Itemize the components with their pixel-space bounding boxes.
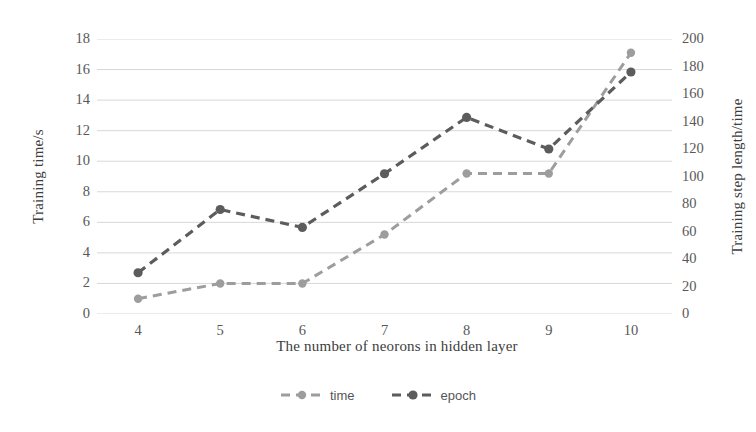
y-axis-right-title: Training step length/time xyxy=(729,57,746,297)
chart-figure: Training time/s Training step length/tim… xyxy=(0,0,756,432)
chart-legend: timeepoch xyxy=(0,382,756,408)
x-axis-tick-label: 9 xyxy=(529,323,569,338)
y-axis-left-tick-label: 2 xyxy=(83,275,90,290)
x-axis-tick-label: 7 xyxy=(365,323,405,338)
y-axis-left-tick-label: 12 xyxy=(76,123,91,138)
y-axis-right-tick-label: 40 xyxy=(682,251,697,266)
y-axis-left-tick-label: 6 xyxy=(83,214,90,229)
y-axis-right-tick-label: 160 xyxy=(682,86,704,101)
y-axis-right-tick-label: 200 xyxy=(682,31,704,46)
series-layer xyxy=(133,49,635,303)
y-axis-right-tick-label: 180 xyxy=(682,59,704,74)
y-axis-right-tick-label: 60 xyxy=(682,224,697,239)
y-axis-left-ticks: 181614121086420 xyxy=(48,0,90,432)
data-point-epoch-5[interactable] xyxy=(216,205,225,214)
data-point-epoch-8[interactable] xyxy=(462,113,471,122)
data-point-epoch-4[interactable] xyxy=(133,268,142,277)
y-axis-right-tick-label: 20 xyxy=(682,279,697,294)
x-axis-tick-label: 5 xyxy=(200,323,240,338)
legend-swatch-icon xyxy=(280,388,324,402)
y-axis-right-tick-label: 120 xyxy=(682,141,704,156)
data-point-epoch-6[interactable] xyxy=(298,223,307,232)
legend-item-time[interactable]: time xyxy=(280,388,355,403)
data-point-time-10[interactable] xyxy=(627,49,635,57)
data-point-time-4[interactable] xyxy=(134,295,142,303)
x-axis-tick-label: 4 xyxy=(118,323,158,338)
y-axis-left-tick-label: 4 xyxy=(83,245,90,260)
data-point-time-7[interactable] xyxy=(380,230,388,238)
y-axis-left-tick-label: 16 xyxy=(76,62,91,77)
y-axis-left-tick-label: 10 xyxy=(76,153,91,168)
y-axis-left-tick-label: 14 xyxy=(76,92,91,107)
x-axis-tick-label: 10 xyxy=(611,323,651,338)
y-axis-left-tick-label: 8 xyxy=(83,184,90,199)
y-axis-right-tick-label: 140 xyxy=(682,114,704,129)
y-axis-left-title: Training time/s xyxy=(30,77,47,277)
y-axis-left-tick-label: 18 xyxy=(76,31,91,46)
plot-area xyxy=(97,39,672,314)
data-point-time-5[interactable] xyxy=(216,279,224,287)
x-axis-tick-label: 8 xyxy=(447,323,487,338)
data-point-time-8[interactable] xyxy=(462,169,470,177)
y-axis-right-tick-label: 100 xyxy=(682,169,704,184)
data-point-time-9[interactable] xyxy=(545,169,553,177)
legend-item-epoch[interactable]: epoch xyxy=(391,388,476,403)
data-point-time-6[interactable] xyxy=(298,279,306,287)
legend-label: epoch xyxy=(441,388,476,403)
y-axis-right-ticks: 200180160140120100806040200 xyxy=(682,0,724,432)
x-axis-tick-label: 6 xyxy=(282,323,322,338)
data-point-epoch-7[interactable] xyxy=(380,169,389,178)
x-axis-ticks: 45678910 xyxy=(0,314,756,344)
data-point-epoch-9[interactable] xyxy=(544,144,553,153)
legend-swatch-icon xyxy=(391,388,435,402)
y-axis-right-tick-label: 80 xyxy=(682,196,697,211)
data-point-epoch-10[interactable] xyxy=(626,67,635,76)
legend-label: time xyxy=(330,388,355,403)
plot-svg xyxy=(97,39,672,314)
